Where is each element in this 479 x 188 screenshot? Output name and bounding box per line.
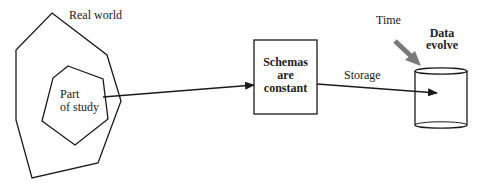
schemas-label-line1: Schemas — [263, 55, 308, 69]
data-label-line2: evolve — [426, 38, 459, 52]
diagram-canvas: Real world Part of study Schemas are con… — [0, 0, 479, 188]
storage-label: Storage — [344, 68, 381, 82]
schemas-label-line3: constant — [264, 81, 307, 95]
real-world-label: Real world — [69, 8, 122, 22]
part-of-study-label-line1: Part — [60, 87, 80, 101]
time-label: Time — [376, 13, 401, 27]
part-of-study-label-line2: of study — [60, 100, 99, 114]
schemas-label-line2: are — [277, 68, 294, 82]
modeling-arrow — [103, 85, 254, 97]
database-cylinder-icon — [415, 68, 467, 128]
time-arrow-icon — [395, 41, 421, 66]
storage-arrow — [317, 84, 437, 93]
